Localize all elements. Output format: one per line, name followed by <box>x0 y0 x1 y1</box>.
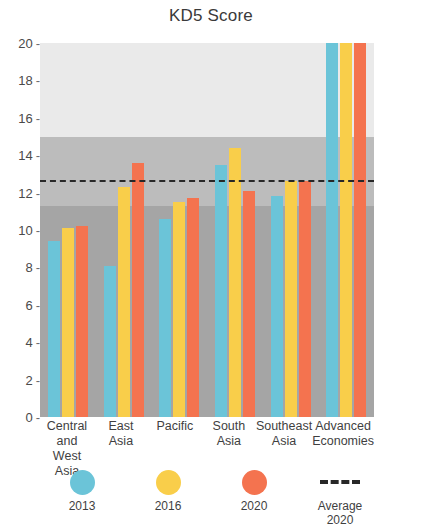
bar-2020[interactable] <box>299 181 311 417</box>
legend-swatch-wrap <box>307 468 373 496</box>
bar-group <box>207 43 263 417</box>
chart-title: KD5 Score <box>0 6 422 26</box>
legend-label-line: 2013 <box>49 499 115 513</box>
legend-label: 2020 <box>221 499 287 513</box>
legend-swatch-wrap <box>135 468 201 496</box>
y-axis-tick: 12- <box>18 185 40 200</box>
y-axis-tick-mark: - <box>33 335 40 350</box>
legend-swatch-wrap <box>221 468 287 496</box>
bar-group <box>318 43 374 417</box>
bar-2016[interactable] <box>62 228 74 417</box>
bar-2020[interactable] <box>243 191 255 417</box>
y-axis-tick-mark: - <box>33 372 40 387</box>
x-axis-label-line: Southeast <box>256 419 312 434</box>
bar-2013[interactable] <box>104 266 116 417</box>
bar-group <box>40 43 96 417</box>
y-axis-tick-label: 20 <box>18 36 32 51</box>
bar-2016[interactable] <box>285 181 297 417</box>
x-axis-label-line: Asia <box>202 434 256 449</box>
x-axis-label-line: East <box>94 419 148 434</box>
bar-2013[interactable] <box>159 219 171 417</box>
y-axis-tick-mark: - <box>33 148 40 163</box>
bar-group <box>96 43 152 417</box>
x-axis-label-line: Asia <box>94 434 148 449</box>
y-axis-tick-label: 12 <box>18 185 32 200</box>
bar-group <box>263 43 319 417</box>
y-axis-tick-label: 18 <box>18 73 32 88</box>
bar-2016[interactable] <box>118 187 130 417</box>
bar-2016[interactable] <box>340 43 352 417</box>
circle-swatch-2016 <box>156 470 181 495</box>
x-axis-label-line: Asia <box>256 434 312 449</box>
x-axis-label-line: Central and <box>40 419 94 449</box>
y-axis-tick: 8- <box>25 260 40 275</box>
legend-label: 2013 <box>49 499 115 513</box>
chart-legend: 201320162020Average2020 <box>0 468 422 527</box>
bar-groups <box>40 43 374 417</box>
legend-label-line: 2016 <box>135 499 201 513</box>
y-axis-tick-label: 10 <box>18 223 32 238</box>
kd5-score-chart: KD5 Score 0-2-4-6-8-10-12-14-16-18-20- C… <box>0 0 422 530</box>
y-axis-tick-mark: - <box>33 73 40 88</box>
y-axis-tick-mark: - <box>33 223 40 238</box>
y-axis-tick: 6- <box>25 297 40 312</box>
y-axis-tick: 0- <box>25 410 40 425</box>
legend-swatch-wrap <box>49 468 115 496</box>
bar-2013[interactable] <box>326 43 338 417</box>
y-axis-tick: 10- <box>18 223 40 238</box>
y-axis-tick-mark: - <box>33 260 40 275</box>
legend-item[interactable]: 2020 <box>221 468 287 527</box>
bar-2020[interactable] <box>132 163 144 417</box>
legend-label-line: 2020 <box>307 513 373 527</box>
y-axis-tick: 18- <box>18 73 40 88</box>
legend-label-line: Average <box>307 499 373 513</box>
bar-2020[interactable] <box>187 198 199 417</box>
y-axis-tick-mark: - <box>33 185 40 200</box>
x-axis-label-line: Pacific <box>148 419 202 434</box>
circle-swatch-2020 <box>242 470 267 495</box>
x-axis-label-line: South <box>202 419 256 434</box>
plot-area <box>40 43 374 417</box>
y-axis-tick-mark: - <box>33 110 40 125</box>
legend-label-line: 2020 <box>221 499 287 513</box>
bar-2020[interactable] <box>354 43 366 417</box>
legend-label: Average2020 <box>307 499 373 527</box>
bar-2020[interactable] <box>76 226 88 417</box>
y-axis-tick-mark: - <box>33 297 40 312</box>
circle-swatch-2013 <box>70 470 95 495</box>
legend-item[interactable]: 2013 <box>49 468 115 527</box>
y-axis-tick: 16- <box>18 110 40 125</box>
y-axis-tick: 20- <box>18 36 40 51</box>
bar-2013[interactable] <box>215 165 227 417</box>
y-axis-tick: 4- <box>25 335 40 350</box>
y-axis-tick-mark: - <box>33 36 40 51</box>
x-axis-label-line <box>148 434 202 449</box>
bar-2016[interactable] <box>173 202 185 417</box>
average-reference-line <box>40 180 374 182</box>
y-axis-tick: 14- <box>18 148 40 163</box>
y-axis: 0-2-4-6-8-10-12-14-16-18-20- <box>0 43 40 417</box>
y-axis-tick-label: 14 <box>18 148 32 163</box>
bar-2013[interactable] <box>48 241 60 417</box>
bar-2013[interactable] <box>271 196 283 417</box>
legend-item[interactable]: Average2020 <box>307 468 373 527</box>
dashed-line-swatch <box>320 480 360 484</box>
y-axis-tick-label: 16 <box>18 110 32 125</box>
y-axis-tick-mark: - <box>33 410 40 425</box>
bar-group <box>151 43 207 417</box>
x-axis-label-line: Advanced <box>312 419 374 434</box>
x-axis-label-line: Economies <box>312 434 374 449</box>
y-axis-tick: 2- <box>25 372 40 387</box>
legend-item[interactable]: 2016 <box>135 468 201 527</box>
legend-label: 2016 <box>135 499 201 513</box>
bar-2016[interactable] <box>229 148 241 417</box>
